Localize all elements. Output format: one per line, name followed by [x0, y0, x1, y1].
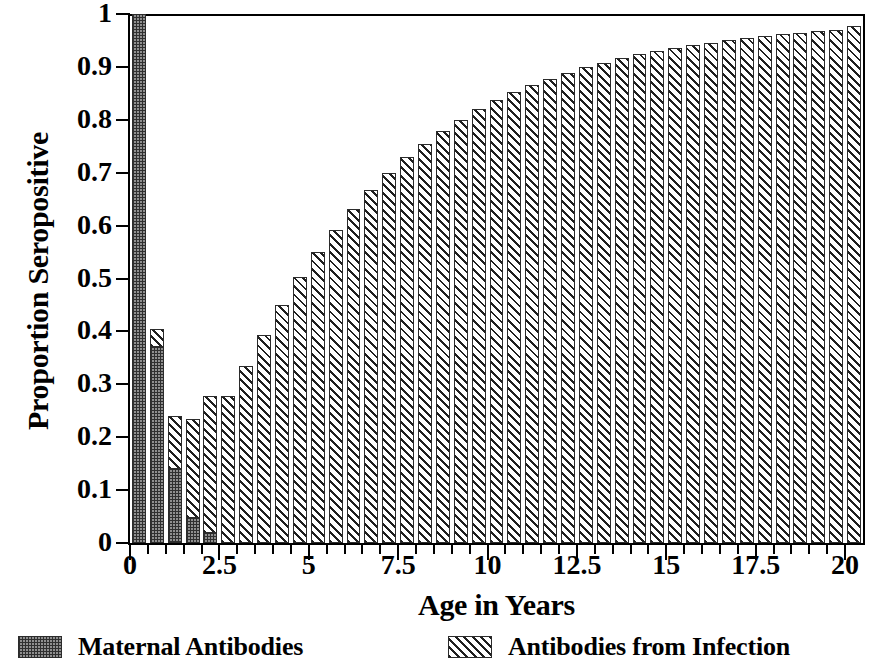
x-tick-label: 5: [264, 551, 354, 579]
x-tick-label: 17.5: [711, 551, 801, 579]
seroprevalence-chart: Proportion Seropositive 00.10.20.30.40.5…: [0, 0, 892, 670]
legend-label-maternal-antibodies: Maternal Antibodies: [78, 632, 303, 662]
legend-entry-maternal-antibodies: Maternal Antibodies: [18, 632, 303, 662]
x-tick-label: 0: [85, 551, 175, 579]
legend-swatch-maternal-antibodies: [18, 636, 62, 658]
x-tick-label: 10: [443, 551, 533, 579]
legend-label-infection-antibodies: Antibodies from Infection: [508, 632, 790, 662]
x-axis-tick-labels: 02.557.51012.51517.520: [0, 0, 892, 670]
x-tick-label: 2.5: [174, 551, 264, 579]
x-tick-label: 20: [800, 551, 890, 579]
x-axis-title: Age in Years: [130, 588, 863, 622]
legend-swatch-infection-antibodies: [448, 636, 492, 658]
x-tick-label: 12.5: [532, 551, 622, 579]
chart-legend: Maternal Antibodies Antibodies from Infe…: [0, 628, 892, 670]
x-tick-label: 7.5: [353, 551, 443, 579]
legend-entry-infection-antibodies: Antibodies from Infection: [448, 632, 790, 662]
x-tick-label: 15: [621, 551, 711, 579]
